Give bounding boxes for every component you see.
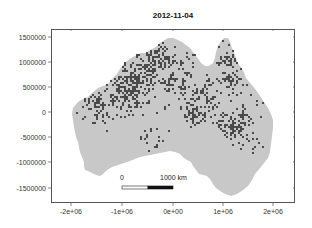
y-tick-label: -500000 [20, 134, 46, 141]
axis-ticks [0, 0, 312, 228]
y-tick-label: -1500000 [16, 185, 46, 192]
x-tick-label: -1e+06 [111, 208, 133, 215]
x-tick-label: -2e+06 [60, 208, 82, 215]
x-tick-label: 2e+06 [263, 208, 283, 215]
y-tick-label: 0 [42, 109, 46, 116]
y-tick-label: 1000000 [19, 59, 46, 66]
x-tick-label: 0e+00 [163, 208, 183, 215]
y-tick-label: 1500000 [19, 34, 46, 41]
y-tick-label: 500000 [23, 84, 46, 91]
x-tick-label: 1e+06 [213, 208, 233, 215]
y-tick-label: -1000000 [16, 159, 46, 166]
